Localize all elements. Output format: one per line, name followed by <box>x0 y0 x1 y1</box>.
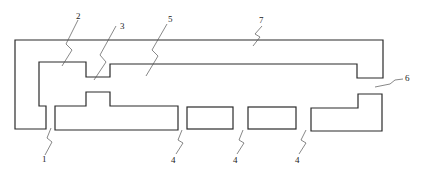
leader-3 <box>94 26 116 80</box>
leader-4b <box>237 130 244 154</box>
label-4b: 4 <box>233 155 238 165</box>
label-6: 6 <box>405 73 410 83</box>
lower-stepped-part <box>55 92 178 130</box>
leader-5 <box>146 24 167 76</box>
block-4-b <box>248 107 296 129</box>
label-3: 3 <box>120 21 125 31</box>
label-4c: 4 <box>295 155 300 165</box>
diagram-canvas: 1 2 3 5 7 6 4 4 4 <box>0 0 422 180</box>
leader-4c <box>299 130 306 154</box>
label-1: 1 <box>42 154 47 164</box>
leader-6 <box>375 79 403 87</box>
label-2: 2 <box>76 11 81 21</box>
leader-2 <box>62 20 78 66</box>
leader-7 <box>253 26 262 46</box>
leader-1 <box>45 128 52 155</box>
leader-4a <box>176 130 183 154</box>
block-l-shaped-right <box>311 94 382 131</box>
label-5: 5 <box>168 14 173 24</box>
diagram-svg: 1 2 3 5 7 6 4 4 4 <box>0 0 422 180</box>
label-7: 7 <box>259 15 264 25</box>
block-4-a <box>187 107 233 129</box>
label-4a: 4 <box>171 155 176 165</box>
